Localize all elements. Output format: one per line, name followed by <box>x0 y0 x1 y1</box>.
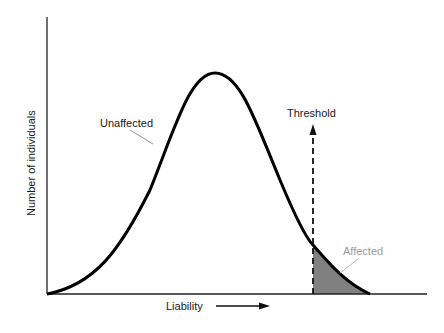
affected-label: Affected <box>343 245 383 257</box>
affected-leader-line <box>340 259 358 273</box>
unaffected-label: Unaffected <box>100 117 153 129</box>
liability-threshold-diagram: Unaffected Threshold Affected Liability … <box>0 0 444 333</box>
threshold-label: Threshold <box>287 107 336 119</box>
arrow-right-icon <box>259 303 270 310</box>
unaffected-leader-line <box>130 130 153 144</box>
x-axis-label: Liability <box>166 300 203 312</box>
arrow-up-icon <box>310 124 317 135</box>
y-axis-label: Number of individuals <box>25 110 37 216</box>
